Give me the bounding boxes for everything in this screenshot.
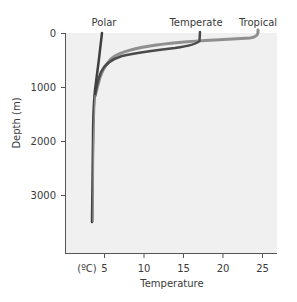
label-temperate: Temperate: [168, 17, 222, 28]
x-tick-labels: (ºC) 5 10 15 20 25: [77, 263, 269, 274]
y-tick-3000: 3000: [31, 190, 56, 201]
x-tick-20: 20: [217, 263, 230, 274]
y-tick-2000: 2000: [31, 136, 56, 147]
x-tick-10: 10: [138, 263, 151, 274]
x-axis-title: Temperature: [139, 278, 203, 289]
x-unit-label: (ºC): [77, 263, 97, 274]
y-axis-title: Depth (m): [11, 97, 22, 148]
y-tick-labels: 0 1000 2000 3000: [31, 28, 56, 201]
x-tick-5: 5: [101, 263, 107, 274]
x-tick-15: 15: [177, 263, 190, 274]
y-tick-1000: 1000: [31, 82, 56, 93]
x-tick-25: 25: [256, 263, 269, 274]
depth-temperature-chart: 0 1000 2000 3000 (ºC) 5 10 15 20 25 Temp…: [0, 0, 297, 302]
y-tick-0: 0: [50, 28, 56, 39]
label-polar: Polar: [92, 17, 118, 28]
label-tropical: Tropical: [238, 17, 277, 28]
